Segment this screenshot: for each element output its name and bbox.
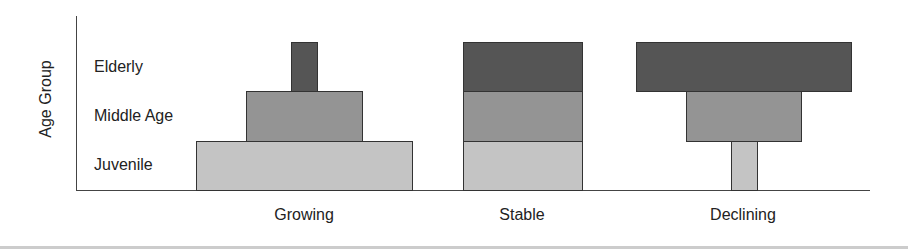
bar-declining-juvenile (731, 141, 758, 191)
bar-declining-elderly (636, 42, 852, 92)
category-elderly: Elderly (94, 58, 143, 76)
y-axis (76, 16, 77, 191)
x-tick-growing: Growing (274, 206, 334, 224)
x-tick-stable: Stable (499, 206, 544, 224)
y-axis-label: Age Group (37, 49, 55, 149)
bar-growing-juvenile (196, 141, 413, 191)
bar-stable-juvenile (463, 141, 583, 191)
bar-declining-middle-age (686, 91, 802, 142)
bar-growing-elderly (291, 42, 318, 92)
bar-stable-middle-age (463, 91, 583, 142)
bar-growing-middle-age (246, 91, 363, 142)
x-tick-declining: Declining (710, 206, 776, 224)
category-middle-age: Middle Age (94, 107, 173, 125)
category-juvenile: Juvenile (94, 156, 153, 174)
bar-stable-elderly (463, 42, 583, 92)
